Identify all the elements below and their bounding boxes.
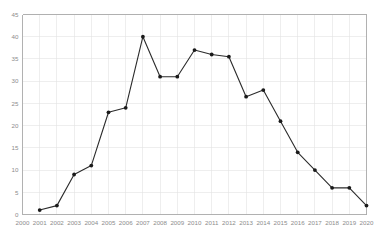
data-point-marker[interactable] bbox=[210, 53, 214, 57]
x-tick-label: 2017 bbox=[308, 219, 322, 226]
x-tick-label: 2010 bbox=[188, 219, 202, 226]
data-point-marker[interactable] bbox=[227, 55, 231, 59]
x-tick-label: 2020 bbox=[360, 219, 374, 226]
data-point-marker[interactable] bbox=[261, 88, 265, 92]
data-point-marker[interactable] bbox=[193, 48, 197, 52]
y-tick-label: 40 bbox=[12, 33, 19, 40]
y-tick-label: 20 bbox=[12, 122, 19, 129]
data-point-marker[interactable] bbox=[330, 186, 334, 190]
data-point-marker[interactable] bbox=[124, 106, 128, 110]
y-tick-label: 15 bbox=[12, 144, 19, 151]
data-point-marker[interactable] bbox=[158, 75, 162, 79]
x-tick-label: 2005 bbox=[102, 219, 116, 226]
line-chart: 051015202530354045 200020012002200320042… bbox=[0, 0, 378, 238]
x-tick-label: 2014 bbox=[256, 219, 270, 226]
x-tick-label: 2016 bbox=[291, 219, 305, 226]
y-tick-label: 30 bbox=[12, 77, 19, 84]
y-tick-label: 45 bbox=[12, 11, 19, 18]
x-tick-label: 2019 bbox=[342, 219, 356, 226]
y-tick-label: 10 bbox=[12, 166, 19, 173]
x-tick-label: 2007 bbox=[136, 219, 150, 226]
x-tick-label: 2001 bbox=[33, 219, 47, 226]
x-tick-label: 2002 bbox=[50, 219, 64, 226]
data-point-marker[interactable] bbox=[244, 95, 248, 99]
data-point-marker[interactable] bbox=[365, 204, 369, 208]
y-tick-label: 0 bbox=[15, 211, 19, 218]
y-tick-label: 35 bbox=[12, 55, 19, 62]
x-tick-label: 2008 bbox=[153, 219, 167, 226]
x-tick-label: 2004 bbox=[84, 219, 98, 226]
x-tick-label: 2013 bbox=[239, 219, 253, 226]
data-point-marker[interactable] bbox=[38, 208, 42, 212]
data-point-marker[interactable] bbox=[72, 173, 76, 177]
data-point-marker[interactable] bbox=[107, 110, 111, 114]
x-axis-tick-labels: 2000200120022003200420052006200720082009… bbox=[16, 219, 374, 226]
x-tick-label: 2015 bbox=[274, 219, 288, 226]
data-point-marker[interactable] bbox=[175, 75, 179, 79]
data-point-marker[interactable] bbox=[296, 150, 300, 154]
y-tick-label: 5 bbox=[15, 189, 19, 196]
chart-canvas: 051015202530354045 200020012002200320042… bbox=[0, 0, 378, 238]
data-point-marker[interactable] bbox=[141, 35, 145, 39]
x-tick-label: 2018 bbox=[325, 219, 339, 226]
x-tick-label: 2000 bbox=[16, 219, 30, 226]
x-tick-label: 2012 bbox=[222, 219, 236, 226]
x-tick-label: 2011 bbox=[205, 219, 219, 226]
data-point-marker[interactable] bbox=[313, 168, 317, 172]
x-tick-label: 2003 bbox=[67, 219, 81, 226]
data-point-marker[interactable] bbox=[347, 186, 351, 190]
x-tick-label: 2009 bbox=[170, 219, 184, 226]
data-point-marker[interactable] bbox=[55, 204, 59, 208]
data-point-marker[interactable] bbox=[89, 164, 93, 168]
y-tick-label: 25 bbox=[12, 100, 19, 107]
x-tick-label: 2006 bbox=[119, 219, 133, 226]
data-point-marker[interactable] bbox=[279, 119, 283, 123]
